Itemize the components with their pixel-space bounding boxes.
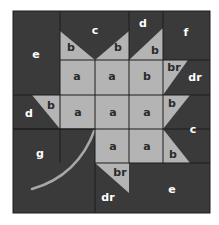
label-e-bottom-right: e [168,183,175,196]
label-c-right: c [190,123,197,136]
label-br-bottom: br [113,166,127,179]
label-c-top: c [92,24,99,37]
label-b-right-lower: b [169,148,177,161]
label-a-r2c2: a [73,70,80,83]
label-dr-r2c5: dr [188,71,202,84]
label-d-top: d [139,17,147,30]
label-d-left: d [25,107,33,120]
label-a-r3c2: a [74,106,81,119]
label-b-top-left: b [67,41,75,54]
label-a-r2c3: a [108,70,115,83]
label-e-top-left: e [32,48,39,61]
label-a-r4c3: a [109,140,116,153]
label-a-r3c4: a [143,106,150,119]
label-b-top-right: b [151,44,159,57]
label-br-r2c5: br [167,61,181,74]
label-f-top-right: f [184,26,189,39]
label-b-r2c4: b [143,70,151,83]
label-b-top-mid: b [114,41,122,54]
quilt-block-diagram: e c b b d b f a a b br dr d b a a a b c … [0,0,219,225]
label-b-right-upper: b [168,97,176,110]
label-dr-bottom: dr [101,191,115,204]
label-g-bottom-left: g [36,147,44,160]
label-b-left: b [47,99,55,112]
label-a-r3c3: a [109,106,116,119]
label-a-r4c4: a [143,140,150,153]
